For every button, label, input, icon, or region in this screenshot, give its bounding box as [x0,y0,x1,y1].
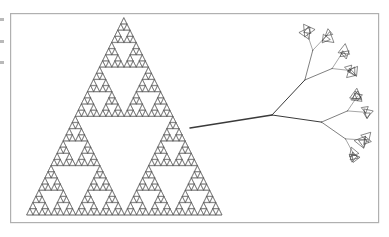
figure-container [0,0,389,237]
fractal-figure [0,0,389,237]
